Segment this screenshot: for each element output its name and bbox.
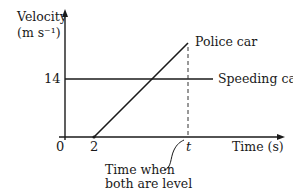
y-axis-label-line1: Velocity xyxy=(17,10,67,24)
annotation-line2: both are level xyxy=(105,177,192,191)
y-tick-14: 14 xyxy=(44,72,61,86)
x-tick-2: 2 xyxy=(90,140,98,154)
origin-label: 0 xyxy=(56,140,64,154)
y-axis-label-line2: (m s⁻¹) xyxy=(17,26,61,40)
police-car-label: Police car xyxy=(195,35,257,49)
x-axis-label: Time (s) xyxy=(232,140,284,154)
speeding-car-label: Speeding car xyxy=(218,72,293,86)
police-car-line xyxy=(94,43,188,137)
x-tick-t: t xyxy=(186,140,191,154)
annotation-line1: Time when xyxy=(105,163,175,177)
